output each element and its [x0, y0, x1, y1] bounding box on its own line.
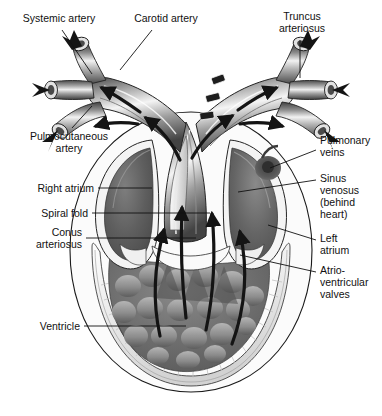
systemic-artery-right — [288, 81, 338, 100]
label-ventricle: Ventricle — [4, 320, 80, 332]
label-pulmocutaneous-artery: Pulmocutaneous artery — [14, 130, 124, 154]
label-carotid-artery: Carotid artery — [114, 12, 218, 24]
sinus-venosus-opening — [255, 156, 281, 180]
figure-canvas: Systemic artery Carotid artery Truncus a… — [0, 0, 382, 416]
label-conus-arteriosus: Conus arteriosus — [4, 226, 82, 250]
label-atrioventricular-valves: Atrio- ventricular valves — [320, 264, 382, 300]
label-systemic-artery: Systemic artery — [6, 12, 112, 24]
label-right-atrium: Right atrium — [4, 182, 94, 194]
label-spiral-fold: Spiral fold — [4, 207, 88, 219]
label-left-atrium: Left atrium — [320, 232, 380, 256]
label-sinus-venosus: Sinus venosus (behind heart) — [320, 172, 382, 220]
label-pulmonary-veins: Pulmonary veins — [320, 134, 382, 158]
systemic-artery-left — [45, 81, 95, 100]
label-truncus-arteriosus: Truncus arteriosus — [256, 10, 348, 34]
